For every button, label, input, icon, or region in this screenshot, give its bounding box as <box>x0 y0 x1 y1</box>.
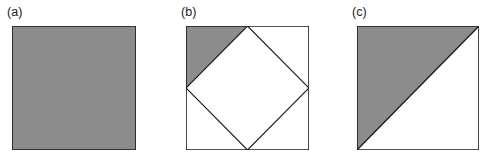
square-with-diagonal-svg <box>357 26 479 150</box>
panel-a-shape <box>12 26 136 150</box>
panel-c-label: (c) <box>352 5 367 20</box>
panel-c-shape <box>357 26 479 150</box>
shaded-region-whole-square <box>12 26 136 150</box>
panel-a: (a) <box>7 0 147 160</box>
panel-b-shape <box>186 26 309 150</box>
panel-b-label: (b) <box>181 5 197 20</box>
square-with-inscribed-diamond-svg <box>186 26 309 150</box>
panel-b: (b) <box>181 0 321 160</box>
figure-panel-row: (a) (b) (c) <box>0 0 484 160</box>
square-fully-shaded-svg <box>12 26 136 150</box>
panel-c: (c) <box>352 0 484 160</box>
panel-a-label: (a) <box>7 5 23 20</box>
